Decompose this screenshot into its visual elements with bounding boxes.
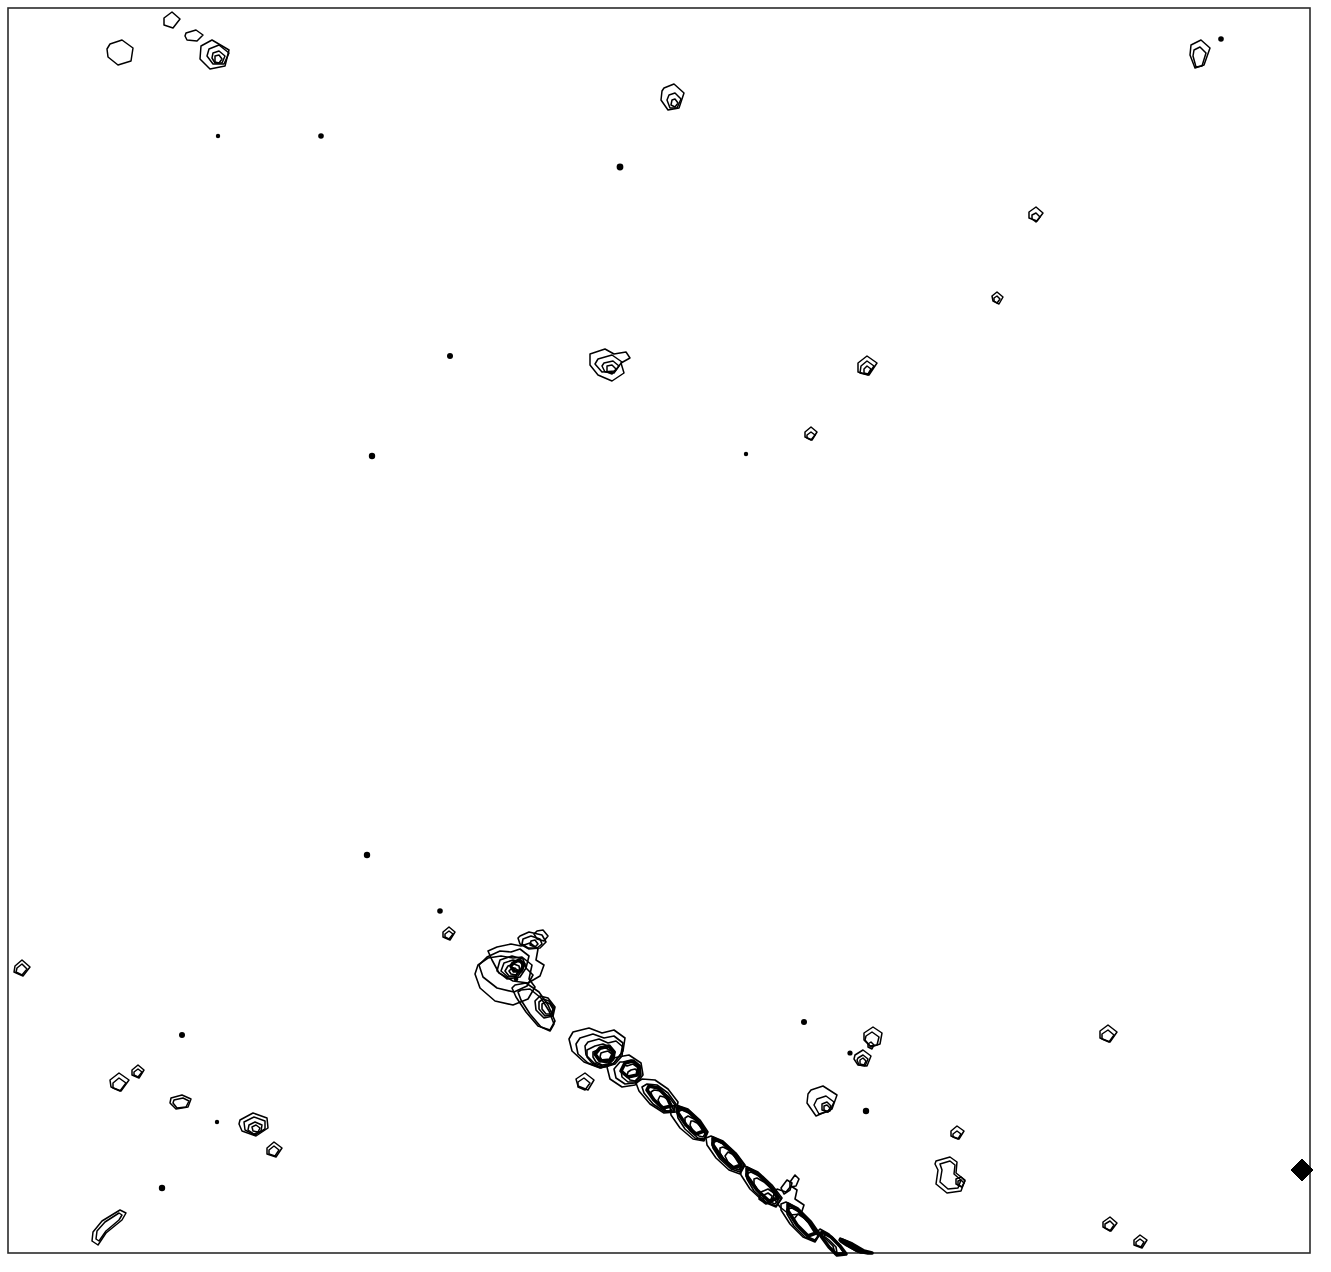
point-source-dot	[159, 1185, 165, 1191]
point-source-dot	[216, 134, 220, 138]
point-source-dot	[179, 1032, 185, 1038]
point-source-dot	[847, 1050, 852, 1055]
point-source-dot	[437, 908, 443, 914]
point-source-dot	[447, 353, 453, 359]
point-source-dot	[744, 452, 748, 456]
contour-figure	[0, 0, 1331, 1272]
point-source-dot	[369, 453, 375, 459]
point-source-dot	[364, 852, 370, 858]
point-source-dot	[514, 977, 519, 982]
point-source-dot	[863, 1108, 869, 1114]
plot-background	[0, 0, 1331, 1272]
point-source-dot	[801, 1019, 807, 1025]
contour-plot-canvas	[0, 0, 1331, 1272]
point-source-dot	[215, 1120, 219, 1124]
point-source-dot	[617, 164, 624, 171]
point-source-dot	[318, 133, 324, 139]
point-source-dot	[1218, 36, 1224, 42]
